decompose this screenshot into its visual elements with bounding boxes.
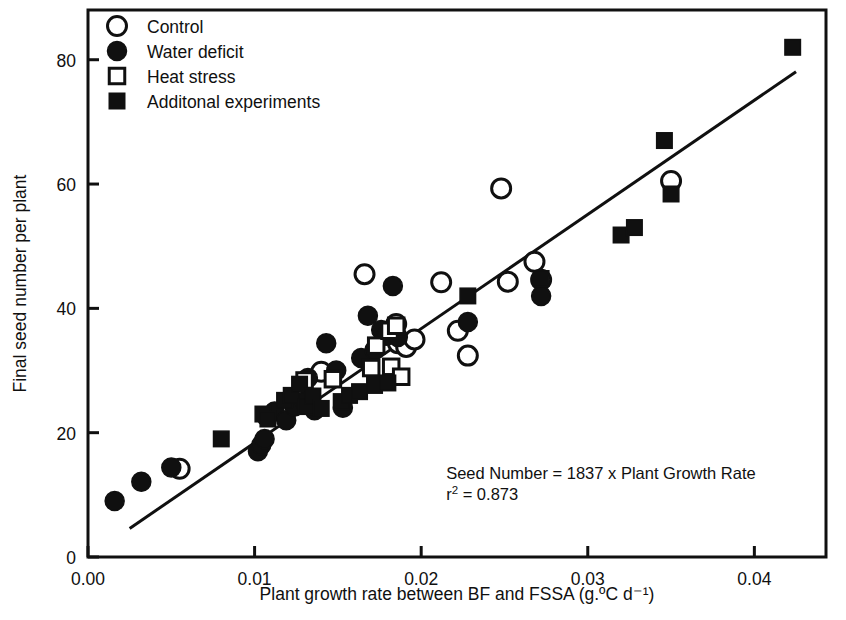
- data-point-0-12: [498, 272, 517, 291]
- data-point-2-1: [325, 371, 341, 387]
- equation-annotation: Seed Number = 1837 x Plant Growth Rate: [446, 464, 756, 482]
- legend-label-1: Water deficit: [147, 42, 244, 62]
- data-point-3-18: [657, 133, 673, 149]
- data-point-0-8: [432, 273, 451, 292]
- legend-label-0: Control: [147, 17, 203, 37]
- data-point-3-2: [260, 411, 276, 427]
- legend-marker-1: [108, 42, 127, 61]
- data-point-0-7: [405, 330, 424, 349]
- data-point-1-21: [383, 276, 402, 295]
- y-tick-label-2: 40: [57, 299, 77, 319]
- legend-label-3: Additonal experiments: [147, 92, 320, 112]
- data-point-3-14: [460, 288, 476, 304]
- data-point-1-0: [105, 492, 124, 511]
- data-point-0-2: [355, 265, 374, 284]
- legend-marker-0: [108, 17, 127, 36]
- y-tick-label-3: 60: [57, 175, 77, 195]
- y-tick-label-4: 80: [57, 51, 77, 71]
- x-tick-label-4: 0.04: [737, 569, 771, 589]
- data-point-1-13: [317, 334, 336, 353]
- data-point-1-2: [162, 458, 181, 477]
- data-point-3-0: [214, 431, 230, 447]
- data-point-0-10: [458, 346, 477, 365]
- data-point-1-5: [255, 429, 274, 448]
- data-point-2-3: [368, 338, 384, 354]
- data-point-0-11: [492, 179, 511, 198]
- legend-marker-2: [109, 68, 125, 84]
- data-point-3-11: [352, 384, 368, 400]
- legend-label-2: Heat stress: [147, 67, 236, 87]
- data-point-2-2: [363, 360, 379, 376]
- data-point-3-17: [627, 220, 643, 236]
- data-point-3-13: [380, 375, 396, 391]
- y-axis-title: Final seed number per plant: [10, 174, 30, 392]
- x-tick-label-0: 0.00: [71, 569, 105, 589]
- data-point-3-19: [663, 186, 679, 202]
- x-axis-title: Plant growth rate between BF and FSSA (g…: [260, 584, 655, 604]
- y-tick-label-1: 20: [57, 424, 77, 444]
- data-point-1-23: [458, 313, 477, 332]
- data-point-3-8: [313, 401, 329, 417]
- data-point-2-6: [388, 318, 404, 334]
- r-squared-annotation: r2 = 0.873: [446, 484, 518, 503]
- data-point-1-24: [532, 286, 551, 305]
- data-point-3-20: [785, 40, 801, 56]
- data-point-3-15: [533, 271, 549, 287]
- data-point-0-13: [525, 252, 544, 271]
- scatter-plot: 0.000.010.020.030.04020406080Plant growt…: [0, 0, 846, 620]
- legend-marker-3: [109, 93, 125, 109]
- data-point-1-1: [132, 472, 151, 491]
- y-tick-label-0: 0: [66, 548, 76, 568]
- figure-panel: 0.000.010.020.030.04020406080Plant growt…: [0, 0, 846, 620]
